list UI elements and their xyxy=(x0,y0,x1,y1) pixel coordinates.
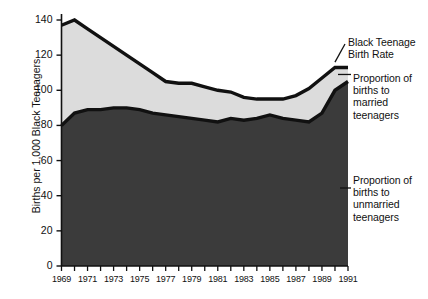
y-axis-tick-label: 80 xyxy=(27,119,53,130)
annotation-black-teenage-birth-rate: Black Teenage Birth Rate xyxy=(348,36,415,60)
x-axis-tick-label: 1981 xyxy=(205,274,231,284)
y-axis-tick-label: 120 xyxy=(27,49,53,60)
x-axis-tick-label: 1971 xyxy=(75,274,101,284)
y-axis-tick-label: 0 xyxy=(27,260,53,271)
annotation-proportion-unmarried: Proportion of births to unmarried teenag… xyxy=(353,174,412,223)
y-axis-tick-label: 140 xyxy=(27,14,53,25)
x-axis-tick-label: 1987 xyxy=(283,274,309,284)
x-axis-tick-label: 1973 xyxy=(101,274,127,284)
chart-figure: Births per 1,000 Black Teenagers 0204060… xyxy=(0,0,428,299)
x-axis-tick-label: 1985 xyxy=(257,274,283,284)
plot-area xyxy=(57,14,352,271)
x-axis-tick-label: 1969 xyxy=(49,274,75,284)
y-axis-tick-label: 100 xyxy=(27,84,53,95)
leader-line-birth-rate xyxy=(335,44,345,62)
y-axis-tick-label: 20 xyxy=(27,225,53,236)
x-axis-tick-label: 1989 xyxy=(309,274,335,284)
x-axis-tick-label: 1977 xyxy=(153,274,179,284)
x-axis-tick-label: 1983 xyxy=(231,274,257,284)
y-axis-tick-label: 40 xyxy=(27,190,53,201)
x-axis-tick-label: 1975 xyxy=(127,274,153,284)
x-axis-tick-label: 1979 xyxy=(179,274,205,284)
annotation-proportion-married: Proportion of births to married teenager… xyxy=(353,72,412,121)
y-axis-tick-label: 60 xyxy=(27,155,53,166)
x-axis-tick-label: 1991 xyxy=(335,274,361,284)
